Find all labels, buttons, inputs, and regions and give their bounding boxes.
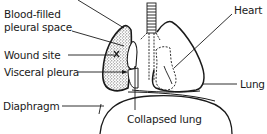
top-leader-line	[78, 0, 124, 28]
label-heart: Heart	[234, 4, 262, 16]
diaphragm-tick	[99, 104, 101, 114]
bronchi	[140, 33, 160, 80]
label-blood-filled-line2: pleural space	[4, 21, 72, 33]
label-wound-site: Wound site	[4, 49, 60, 61]
label-blood-filled-line1: Blood-filled	[4, 8, 61, 20]
trachea	[147, 3, 156, 33]
lung-diagram: Blood-filled pleural space Wound site Vi…	[0, 0, 267, 134]
collapsed-lung-lower	[128, 68, 138, 88]
heart-outline-dashed	[156, 47, 176, 90]
label-lung: Lung	[240, 78, 265, 90]
label-visceral-pleura: Visceral pleura	[4, 66, 79, 78]
healthy-lung-outline	[153, 21, 204, 91]
label-collapsed-lung: Collapsed lung	[127, 113, 202, 125]
heart-inner-contour	[164, 66, 172, 84]
heart-leader	[174, 14, 232, 68]
label-diaphragm: Diaphragm	[3, 100, 60, 112]
